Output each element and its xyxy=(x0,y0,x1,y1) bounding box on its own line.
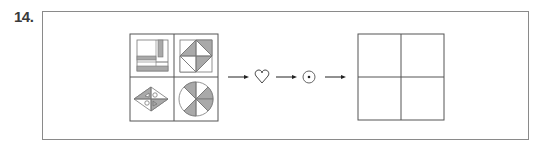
circled-dot-icon xyxy=(303,71,315,83)
arrow-3 xyxy=(325,75,346,79)
puzzle-diagram xyxy=(0,0,547,148)
source-cell-diamond xyxy=(180,40,212,72)
answer-grid[interactable] xyxy=(358,34,444,120)
heart-icon xyxy=(255,70,269,83)
source-cell-rhombus xyxy=(134,87,168,111)
arrow-1 xyxy=(228,75,249,79)
source-cell-bars xyxy=(137,40,168,71)
arrow-2 xyxy=(276,75,297,79)
source-cell-circle xyxy=(179,82,213,116)
